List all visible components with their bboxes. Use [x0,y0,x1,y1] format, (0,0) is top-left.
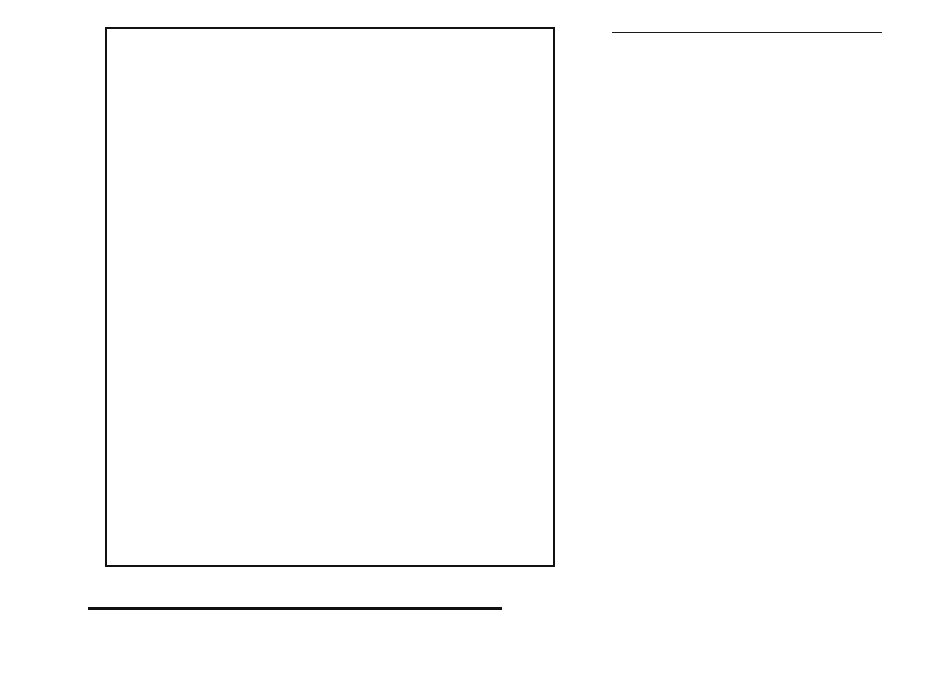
table-header-row [612,30,882,33]
table-header-gkg [762,30,882,33]
chart-canvas [107,29,557,569]
humidity-figure [0,0,933,678]
humidity-table [612,30,882,33]
humidity-table-panel [586,8,926,33]
fahrenheit-axis-bar [88,607,502,619]
table-header-temperature [612,30,762,33]
celsius-axis-row [0,572,600,600]
fahrenheit-axis-line [88,607,502,610]
fahrenheit-axis-row [0,621,600,649]
plot-area [105,27,555,567]
